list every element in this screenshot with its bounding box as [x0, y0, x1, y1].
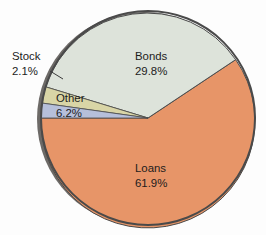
slice-label-bonds-name: Bonds — [135, 50, 168, 62]
slice-label-bonds-value: 29.8% — [135, 65, 167, 77]
pie-chart-svg: Stock 2.1% Bonds 29.8% Other 6.2% Loans … — [0, 0, 266, 235]
pie-chart: Stock 2.1% Bonds 29.8% Other 6.2% Loans … — [0, 0, 266, 235]
slice-label-other-name: Other — [56, 92, 85, 104]
slice-label-stock-name: Stock — [12, 50, 41, 62]
slice-label-stock-value: 2.1% — [12, 65, 38, 77]
slice-label-other-value: 6.2% — [56, 107, 82, 119]
slice-label-loans-name: Loans — [135, 162, 166, 174]
slice-label-loans-value: 61.9% — [135, 177, 167, 189]
